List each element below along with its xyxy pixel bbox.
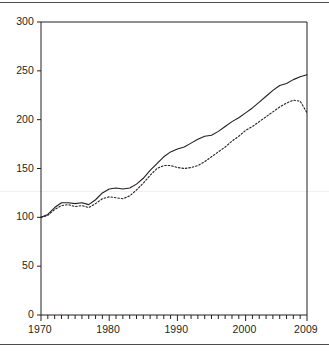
y-tick-label: 100 [2, 210, 34, 222]
y-axis-ticks [37, 22, 41, 315]
x-tick-label: 1990 [164, 323, 188, 335]
chart-figure: 050100150200250300 19701980199020002009 [0, 0, 329, 351]
y-tick-label: 50 [2, 259, 34, 271]
x-tick-label: 1970 [28, 323, 52, 335]
series-line-dotted [41, 100, 307, 217]
axis-frame [41, 22, 307, 315]
x-tick-label: 1980 [96, 323, 120, 335]
series-line-solid [41, 75, 307, 218]
y-tick-label: 150 [2, 162, 34, 174]
x-tick-label: 2009 [294, 323, 318, 335]
x-tick-label: 2000 [233, 323, 257, 335]
line-chart-plot [0, 0, 329, 351]
y-tick-label: 0 [2, 308, 34, 320]
y-tick-label: 200 [2, 113, 34, 125]
y-tick-label: 300 [2, 15, 34, 27]
x-axis-ticks [41, 315, 307, 321]
y-tick-label: 250 [2, 64, 34, 76]
